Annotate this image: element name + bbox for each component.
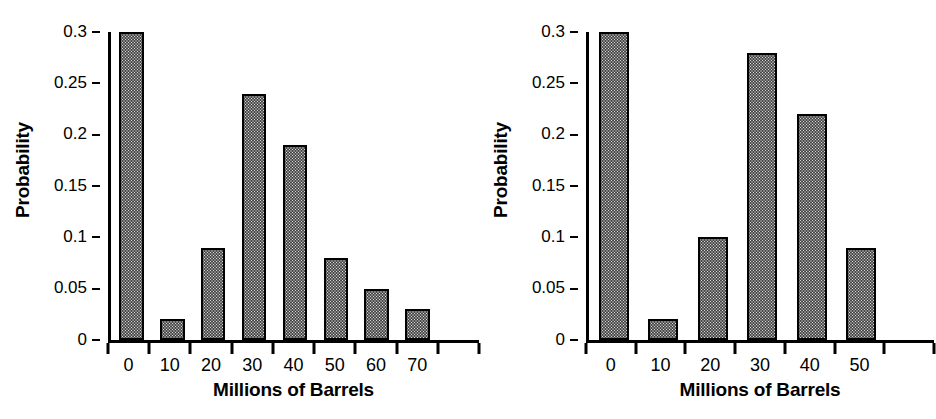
x-tick-label: 70 [407, 356, 427, 374]
y-tick-mark [570, 339, 578, 341]
x-tick-mark [933, 343, 936, 354]
y-tick-label: 0 [78, 331, 92, 348]
bar-bin [397, 32, 438, 340]
y-tick-label: 0.15 [54, 177, 92, 194]
y-tick-mark [92, 185, 100, 187]
bar-40 [283, 145, 308, 340]
y-tick-mark [92, 82, 100, 84]
bar-bin [234, 32, 275, 340]
y-tick-label: 0.25 [532, 74, 570, 91]
x-tick-mark [684, 343, 687, 354]
bar-bin [738, 32, 788, 340]
bar-bin [589, 32, 639, 340]
x-axis-tick-labels-right: 01020304050 [586, 356, 934, 380]
y-axis-ticks-right: 00.050.10.150.20.250.3 [516, 0, 578, 340]
x-axis-ticks-left [108, 343, 479, 355]
bar-bin [639, 32, 689, 340]
bar-70 [405, 309, 430, 340]
y-axis-title-right-text: Probability [490, 122, 512, 218]
plot-area-right [586, 32, 886, 340]
y-tick-mark [570, 288, 578, 290]
y-tick-label: 0.1 [541, 228, 570, 245]
x-tick-label: 10 [651, 356, 671, 374]
bar-0 [599, 32, 629, 340]
chart-panel-left: Probability 00.050.10.150.20.250.3 01020… [0, 0, 462, 419]
y-axis-title-left-text: Probability [12, 122, 34, 218]
x-tick-mark [395, 343, 398, 354]
bar-30 [747, 53, 777, 340]
plot-area-left [108, 32, 438, 340]
x-tick-label: 40 [800, 356, 820, 374]
x-tick-mark [734, 343, 737, 354]
y-tick-label: 0.25 [54, 74, 92, 91]
bar-30 [242, 94, 267, 340]
y-tick-mark [92, 134, 100, 136]
y-tick-mark [570, 31, 578, 33]
bar-20 [201, 248, 226, 340]
y-axis-title-left: Probability [6, 0, 40, 340]
bar-10 [160, 319, 185, 340]
x-tick-label: 0 [124, 356, 134, 374]
x-tick-mark [833, 343, 836, 354]
y-tick-label: 0.3 [63, 23, 92, 40]
y-tick-mark [570, 134, 578, 136]
y-tick-label: 0.3 [541, 23, 570, 40]
y-tick-label: 0.1 [63, 228, 92, 245]
bar-bin [356, 32, 397, 340]
x-tick-label: 60 [366, 356, 386, 374]
x-axis-tick-labels-left: 010203040506070 [108, 356, 479, 380]
y-axis-title-right: Probability [484, 0, 518, 340]
x-tick-mark [107, 343, 110, 354]
x-tick-mark [783, 343, 786, 354]
x-tick-mark [883, 343, 886, 354]
bar-0 [119, 32, 144, 340]
x-tick-mark [313, 343, 316, 354]
y-tick-mark [92, 236, 100, 238]
y-tick-mark [570, 236, 578, 238]
x-tick-mark [189, 343, 192, 354]
y-tick-mark [92, 339, 100, 341]
bar-10 [648, 319, 678, 340]
y-tick-label: 0 [556, 331, 570, 348]
y-tick-label: 0.2 [541, 125, 570, 142]
bar-bin [315, 32, 356, 340]
x-axis-title-left: Millions of Barrels [108, 379, 479, 401]
bar-50 [846, 248, 876, 340]
x-tick-mark [436, 343, 439, 354]
y-tick-mark [92, 288, 100, 290]
y-tick-mark [92, 31, 100, 33]
chart-panel-right: Probability 00.050.10.150.20.250.3 01020… [462, 0, 914, 419]
x-tick-label: 40 [283, 356, 303, 374]
x-tick-label: 30 [242, 356, 262, 374]
x-tick-mark [354, 343, 357, 354]
bar-20 [698, 237, 728, 340]
x-tick-label: 50 [325, 356, 345, 374]
x-tick-mark [634, 343, 637, 354]
x-tick-label: 50 [849, 356, 869, 374]
bar-bin [837, 32, 887, 340]
x-tick-mark [230, 343, 233, 354]
bar-bin [275, 32, 316, 340]
bar-bin [688, 32, 738, 340]
bar-series-left [111, 32, 438, 340]
y-tick-mark [570, 185, 578, 187]
y-tick-label: 0.15 [532, 177, 570, 194]
bar-series-right [589, 32, 886, 340]
y-tick-label: 0.05 [54, 279, 92, 296]
x-tick-label: 30 [750, 356, 770, 374]
x-tick-mark [271, 343, 274, 354]
bar-bin [193, 32, 234, 340]
bar-bin [152, 32, 193, 340]
bar-bin [111, 32, 152, 340]
x-axis-title-right: Millions of Barrels [586, 379, 934, 401]
y-tick-mark [570, 82, 578, 84]
y-axis-ticks-left: 00.050.10.150.20.250.3 [38, 0, 100, 340]
bar-bin [787, 32, 837, 340]
x-axis-ticks-right [586, 343, 934, 355]
x-tick-label: 20 [700, 356, 720, 374]
y-tick-label: 0.05 [532, 279, 570, 296]
x-tick-mark [148, 343, 151, 354]
x-tick-label: 0 [606, 356, 616, 374]
bar-40 [797, 114, 827, 340]
